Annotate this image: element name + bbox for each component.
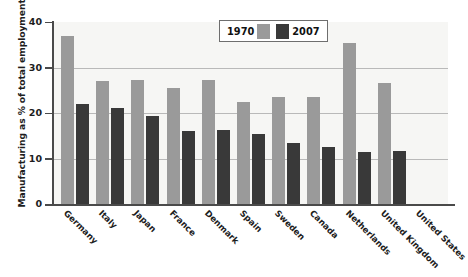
- y-tick-label: 40: [20, 16, 42, 27]
- x-tick-label: Denmark: [203, 208, 241, 246]
- bar-group: [131, 22, 159, 204]
- bar-sweden-2007: [287, 143, 300, 204]
- bar-group: [378, 22, 406, 204]
- bar-group: [413, 22, 441, 204]
- bar-denmark-1970: [202, 80, 215, 204]
- bar-netherlands-2007: [358, 152, 371, 204]
- bar-japan-1970: [131, 80, 144, 204]
- x-tick-label: France: [168, 208, 198, 238]
- y-tick-mark: [45, 204, 52, 206]
- bar-france-1970: [167, 88, 180, 204]
- bar-sweden-1970: [272, 97, 285, 204]
- bar-group: [202, 22, 230, 204]
- bar-germany-1970: [61, 36, 74, 204]
- legend-swatch-1970: [257, 24, 270, 39]
- y-tick-mark: [45, 67, 52, 69]
- x-tick-label: Spain: [238, 208, 264, 234]
- bar-spain-1970: [237, 102, 250, 204]
- y-tick-mark: [45, 22, 52, 24]
- bar-italy-2007: [111, 108, 124, 204]
- bar-group: [61, 22, 89, 204]
- legend-label-2007: 2007: [292, 26, 319, 37]
- bar-group: [237, 22, 265, 204]
- bar-group: [343, 22, 371, 204]
- bar-spain-2007: [252, 134, 265, 204]
- x-axis-line: [45, 204, 455, 206]
- bar-united-kingdom-1970: [378, 83, 391, 204]
- y-tick-mark: [45, 113, 52, 115]
- x-tick-label: Italy: [97, 208, 119, 230]
- bar-italy-1970: [96, 81, 109, 204]
- bar-canada-2007: [322, 147, 335, 204]
- x-tick-label: Germany: [62, 208, 100, 246]
- y-axis-line: [52, 21, 54, 205]
- y-tick-label: 10: [20, 153, 42, 164]
- bar-denmark-2007: [217, 130, 230, 204]
- bar-netherlands-1970: [343, 43, 356, 204]
- x-tick-label: Sweden: [273, 208, 307, 242]
- bar-japan-2007: [146, 116, 159, 204]
- chart-legend: 1970 2007: [219, 20, 328, 42]
- bar-group: [167, 22, 195, 204]
- bar-group: [272, 22, 300, 204]
- bar-germany-2007: [76, 104, 89, 204]
- y-tick-label: 30: [20, 62, 42, 73]
- bar-france-2007: [182, 131, 195, 204]
- x-tick-label: Canada: [308, 208, 341, 241]
- bar-group: [96, 22, 124, 204]
- bar-group: [307, 22, 335, 204]
- legend-label-1970: 1970: [227, 26, 254, 37]
- y-tick-label: 20: [20, 107, 42, 118]
- x-tick-label: Japan: [132, 208, 158, 234]
- bar-united-kingdom-2007: [393, 151, 406, 204]
- legend-swatch-2007: [276, 24, 289, 39]
- x-tick-label: United Kingdom: [379, 208, 441, 270]
- y-tick-label: 0: [20, 198, 42, 209]
- bar-canada-1970: [307, 97, 320, 204]
- y-tick-mark: [45, 158, 52, 160]
